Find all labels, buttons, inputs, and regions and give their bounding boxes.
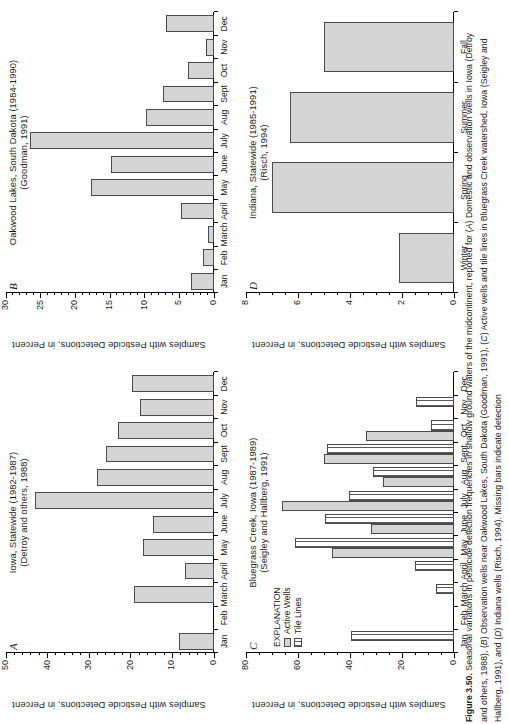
x-tick xyxy=(214,129,218,130)
bar-C-jan-tile-lines xyxy=(351,631,454,641)
bar-C-july-active-wells xyxy=(282,501,454,511)
x-tick xyxy=(454,535,458,536)
y-tick-minor xyxy=(311,653,312,656)
legend-title: EXPLANATION xyxy=(272,587,282,647)
bar-A-dec xyxy=(132,375,214,392)
y-tick-major xyxy=(75,293,76,298)
y-tick-minor xyxy=(14,653,15,656)
panel-A-container: Iowa, Statewide (1982-1987)(Detroy and o… xyxy=(0,364,236,709)
x-tick xyxy=(454,222,458,223)
y-tick-major xyxy=(40,293,41,298)
x-tick xyxy=(454,418,458,419)
x-tick-label-dec: Dec xyxy=(219,0,229,50)
y-tick-minor xyxy=(64,653,65,656)
y-tick-label: 20 xyxy=(125,660,135,687)
x-tick xyxy=(214,372,218,373)
x-tick xyxy=(454,489,458,490)
y-tick-minor xyxy=(428,293,429,296)
y-tick-minor xyxy=(114,653,115,656)
y-axis-title: Samples with Pesticide Detections, in Pe… xyxy=(252,700,446,710)
y-tick-minor xyxy=(337,653,338,656)
x-tick xyxy=(454,82,458,83)
x-tick xyxy=(454,465,458,466)
y-tick-label: 15 xyxy=(104,300,114,327)
y-tick-label: 50 xyxy=(0,660,10,687)
bar-D-fall xyxy=(324,22,454,73)
x-tick xyxy=(214,12,218,13)
x-tick xyxy=(214,606,218,607)
y-tick-minor xyxy=(89,293,90,296)
y-tick-major xyxy=(6,293,7,298)
bar-B-may xyxy=(91,179,214,196)
legend-item-tile-lines: Tile Lines xyxy=(293,587,303,647)
bar-C-aug-active-wells xyxy=(383,477,455,487)
y-tick-label: 30 xyxy=(83,660,93,687)
y-tick-minor xyxy=(39,653,40,656)
chart-panel-B: Oakwood Lakes, South Dakota (1984-1990)(… xyxy=(0,4,236,349)
x-tick xyxy=(454,372,458,373)
y-tick-minor xyxy=(189,653,190,656)
bar-D-summer xyxy=(290,92,454,143)
y-tick-label: 0 xyxy=(448,660,458,687)
y-tick-minor xyxy=(151,293,152,296)
y-tick-minor xyxy=(337,293,338,296)
y-tick-minor xyxy=(30,653,31,656)
bar-A-aug xyxy=(97,469,214,486)
bar-A-march xyxy=(134,586,214,603)
y-tick-minor xyxy=(311,293,312,296)
y-tick-minor xyxy=(33,293,34,296)
y-tick-minor xyxy=(441,293,442,296)
legend-swatch-active-wells xyxy=(284,638,292,647)
x-tick xyxy=(214,582,218,583)
y-tick-label: 10 xyxy=(139,300,149,327)
bar-C-may-active-wells xyxy=(332,548,454,558)
y-tick-minor xyxy=(172,293,173,296)
legend-swatch-tile-lines xyxy=(294,638,302,647)
y-tick-minor xyxy=(97,653,98,656)
x-tick xyxy=(454,559,458,560)
y-axis-title: Samples with Pesticide Detections, in Pe… xyxy=(12,340,206,350)
y-tick-minor xyxy=(123,293,124,296)
x-tick xyxy=(454,152,458,153)
y-tick-minor xyxy=(197,653,198,656)
bar-C-sept-tile-lines xyxy=(327,444,454,454)
plot-axes xyxy=(6,12,214,293)
bar-C-june-active-wells xyxy=(371,524,454,534)
y-tick-major xyxy=(298,293,299,298)
bar-B-jan xyxy=(191,273,214,290)
bar-A-may xyxy=(143,539,214,556)
y-tick-major xyxy=(402,653,403,658)
bar-C-june-tile-lines xyxy=(325,514,454,524)
y-tick-major xyxy=(246,293,247,298)
figure-caption-container: Figure 3.50. Seasonal variations in pest… xyxy=(462,6,506,722)
x-tick xyxy=(214,105,218,106)
bar-C-july-tile-lines xyxy=(349,491,454,501)
y-tick-minor xyxy=(389,293,390,296)
x-tick xyxy=(214,293,218,294)
bar-B-june xyxy=(111,156,214,173)
figure-page: Iowa, Statewide (1982-1987)(Detroy and o… xyxy=(0,0,509,724)
y-tick-minor xyxy=(165,293,166,296)
y-tick-label: 20 xyxy=(69,300,79,327)
bar-C-aug-tile-lines xyxy=(373,467,454,477)
bar-C-oct-active-wells xyxy=(366,431,454,441)
y-tick-minor xyxy=(193,293,194,296)
y-tick-label: 0 xyxy=(208,300,218,327)
y-tick-minor xyxy=(376,293,377,296)
y-tick-minor xyxy=(147,653,148,656)
y-axis-title: Samples with Pesticide Detections, in Pe… xyxy=(12,700,206,710)
y-tick-minor xyxy=(363,653,364,656)
y-tick-minor xyxy=(389,653,390,656)
x-tick xyxy=(214,82,218,83)
y-tick-major xyxy=(246,653,247,658)
x-tick xyxy=(214,653,218,654)
x-tick xyxy=(214,535,218,536)
x-tick xyxy=(214,418,218,419)
y-tick-minor xyxy=(164,653,165,656)
panel-C-container: Bluegrass Creek, Iowa (1987-1989)(Seigle… xyxy=(240,364,476,709)
x-tick xyxy=(214,442,218,443)
y-tick-minor xyxy=(55,653,56,656)
legend-label: Tile Lines xyxy=(293,598,303,634)
y-tick-minor xyxy=(158,293,159,296)
chart-panel-C: Bluegrass Creek, Iowa (1987-1989)(Seigle… xyxy=(240,364,476,709)
